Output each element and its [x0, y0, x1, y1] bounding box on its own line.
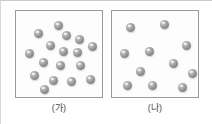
caption-ga: (가)	[15, 102, 103, 114]
particle	[86, 75, 95, 84]
particle	[178, 83, 187, 92]
particle	[62, 31, 71, 40]
particle-box-ga	[15, 10, 103, 98]
panel-na	[111, 10, 199, 98]
particle	[73, 48, 82, 57]
particle	[39, 58, 48, 67]
particle	[169, 59, 178, 68]
particle	[67, 77, 76, 86]
particle	[56, 61, 65, 70]
particle	[148, 81, 157, 90]
particle	[182, 41, 191, 50]
particle	[25, 49, 34, 58]
particle-diagram-figure: (가) (나)	[0, 0, 212, 124]
particle-box-na	[111, 10, 199, 98]
particle	[75, 35, 84, 44]
particle	[123, 81, 132, 90]
particle	[54, 21, 63, 30]
particle	[136, 67, 145, 76]
particle	[126, 23, 135, 32]
particle	[30, 71, 39, 80]
caption-na: (나)	[111, 102, 199, 114]
panel-ga	[15, 10, 103, 98]
particle	[188, 69, 197, 78]
particle	[76, 61, 85, 70]
particle	[145, 47, 154, 56]
particle	[34, 29, 43, 38]
particle	[46, 41, 55, 50]
particle	[120, 49, 129, 58]
particle	[59, 47, 68, 56]
particle	[40, 85, 49, 94]
particle	[88, 42, 97, 51]
particle	[49, 76, 58, 85]
particle	[160, 20, 169, 29]
